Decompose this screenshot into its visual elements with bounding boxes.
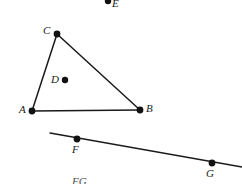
point-label-e: E	[112, 0, 119, 9]
point-label-b: B	[146, 103, 153, 114]
point-dot-d	[62, 77, 68, 83]
point-dot-e	[105, 0, 111, 4]
point-dot-a	[29, 108, 36, 115]
point-dot-g	[209, 160, 216, 167]
point-label-c: C	[43, 25, 50, 36]
triangle-abc	[32, 34, 140, 111]
geometry-figure: E C D A B F G FG	[0, 0, 242, 184]
segment-cb	[57, 34, 140, 110]
point-dot-c	[54, 31, 61, 38]
point-dot-b	[137, 107, 144, 114]
caption-math-fg: FG	[72, 176, 87, 184]
figure-canvas	[0, 0, 242, 184]
segment-ab	[32, 110, 140, 111]
point-label-f: F	[72, 144, 79, 155]
point-label-a: A	[19, 104, 26, 115]
caption-fragment: FG	[0, 176, 242, 184]
point-label-d: D	[51, 74, 59, 85]
point-dot-f	[74, 136, 81, 143]
